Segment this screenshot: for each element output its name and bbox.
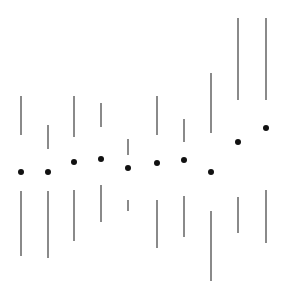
data-point-marker	[45, 169, 51, 175]
data-point-marker	[71, 159, 77, 165]
data-point-marker	[125, 165, 131, 171]
data-point-marker	[208, 169, 214, 175]
data-point-marker	[18, 169, 24, 175]
chart-container	[0, 0, 285, 290]
errorbar-scatter-plot	[0, 0, 285, 290]
data-point-marker	[235, 139, 241, 145]
data-point-marker	[98, 156, 104, 162]
plot-background	[0, 0, 285, 290]
data-point-marker	[181, 157, 187, 163]
data-point-marker	[263, 125, 269, 131]
data-point-marker	[154, 160, 160, 166]
